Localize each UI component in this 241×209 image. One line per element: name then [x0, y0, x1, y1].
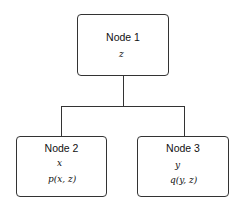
- node-1: Node 1 z: [77, 14, 169, 76]
- edge-to-node2: [61, 106, 62, 136]
- edge-node1-trunk: [123, 76, 124, 106]
- node-2-title: Node 2: [17, 142, 106, 154]
- node-1-title: Node 1: [78, 31, 168, 43]
- edge-horizontal-bar: [61, 106, 185, 107]
- node-1-var: z: [119, 49, 124, 59]
- node-3-title: Node 3: [138, 142, 228, 154]
- node-2-var: x: [57, 158, 62, 168]
- node-3-var: y: [175, 160, 180, 170]
- edge-to-node3: [184, 106, 185, 136]
- node-2: Node 2 x p(x, z): [16, 136, 107, 197]
- node-3: Node 3 y q(y, z): [137, 136, 229, 197]
- node-2-func: p(x, z): [48, 174, 76, 184]
- node-3-func: q(y, z): [170, 175, 197, 185]
